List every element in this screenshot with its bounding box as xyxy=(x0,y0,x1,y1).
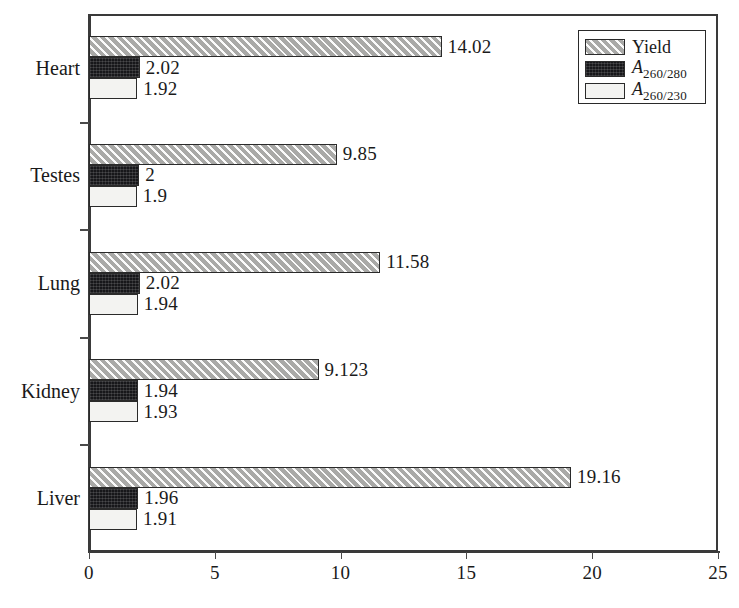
bar-lung-a230 xyxy=(89,294,138,315)
bar-lung-yield xyxy=(89,252,380,273)
bar-value-lung-yield: 11.58 xyxy=(386,251,429,273)
x-tick-label: 0 xyxy=(84,562,94,584)
legend-item: Yield xyxy=(585,36,699,57)
legend-label: A260/280 xyxy=(632,58,687,80)
bar-liver-a230 xyxy=(89,509,137,530)
legend-label: A260/230 xyxy=(632,80,687,102)
legend-swatch-a230 xyxy=(585,83,625,99)
x-tick-mark xyxy=(215,552,216,559)
x-tick-mark xyxy=(466,552,467,559)
y-tick-mark xyxy=(80,444,89,446)
bar-value-testes-a230: 1.9 xyxy=(143,185,167,207)
legend-item: A260/230 xyxy=(585,80,699,101)
bar-value-liver-a280: 1.96 xyxy=(144,487,178,509)
bar-testes-a280 xyxy=(89,165,139,186)
bar-chart: 0510152025 HeartTestesLungKidneyLiver 14… xyxy=(0,0,739,608)
bar-value-testes-a280: 2 xyxy=(145,164,155,186)
bar-kidney-a280 xyxy=(89,380,138,401)
bar-value-liver-yield: 19.16 xyxy=(577,466,621,488)
x-tick-label: 5 xyxy=(210,562,220,584)
bar-value-lung-a230: 1.94 xyxy=(144,293,178,315)
x-tick-mark xyxy=(341,552,342,559)
bar-testes-a230 xyxy=(89,186,137,207)
bar-testes-yield xyxy=(89,144,337,165)
category-label-testes: Testes xyxy=(30,164,80,187)
legend-swatch-yield xyxy=(585,39,625,55)
bar-value-lung-a280: 2.02 xyxy=(146,272,180,294)
legend-label: Yield xyxy=(632,38,671,56)
y-tick-mark xyxy=(80,122,89,124)
x-tick-label: 15 xyxy=(457,562,477,584)
bar-value-kidney-yield: 9.123 xyxy=(325,359,369,381)
bar-heart-yield xyxy=(89,36,442,57)
category-label-heart: Heart xyxy=(36,56,80,79)
x-axis-line xyxy=(89,551,720,553)
category-label-kidney: Kidney xyxy=(21,379,80,402)
bar-kidney-yield xyxy=(89,359,319,380)
bar-liver-a280 xyxy=(89,488,138,509)
bar-value-kidney-a280: 1.94 xyxy=(144,380,178,402)
y-tick-mark xyxy=(80,337,89,339)
x-tick-label: 20 xyxy=(582,562,602,584)
x-tick-label: 25 xyxy=(708,562,728,584)
x-tick-mark xyxy=(592,552,593,559)
bar-heart-a230 xyxy=(89,78,137,99)
bar-kidney-a230 xyxy=(89,401,138,422)
bar-lung-a280 xyxy=(89,273,140,294)
y-tick-mark xyxy=(80,229,89,231)
x-tick-mark xyxy=(89,552,90,559)
bar-value-heart-a280: 2.02 xyxy=(146,57,180,79)
bar-value-heart-yield: 14.02 xyxy=(448,36,492,58)
x-tick-label: 10 xyxy=(331,562,351,584)
chart-legend: YieldA260/280A260/230 xyxy=(578,30,706,104)
bar-heart-a280 xyxy=(89,57,140,78)
bar-value-liver-a230: 1.91 xyxy=(143,508,177,530)
legend-item: A260/280 xyxy=(585,58,699,79)
category-label-liver: Liver xyxy=(37,487,80,510)
legend-swatch-a280 xyxy=(585,61,625,77)
bar-value-kidney-a230: 1.93 xyxy=(144,401,178,423)
bar-value-testes-yield: 9.85 xyxy=(343,143,377,165)
bar-value-heart-a230: 1.92 xyxy=(143,78,177,100)
x-tick-mark xyxy=(718,552,719,559)
bar-liver-yield xyxy=(89,467,571,488)
category-label-lung: Lung xyxy=(38,272,80,295)
